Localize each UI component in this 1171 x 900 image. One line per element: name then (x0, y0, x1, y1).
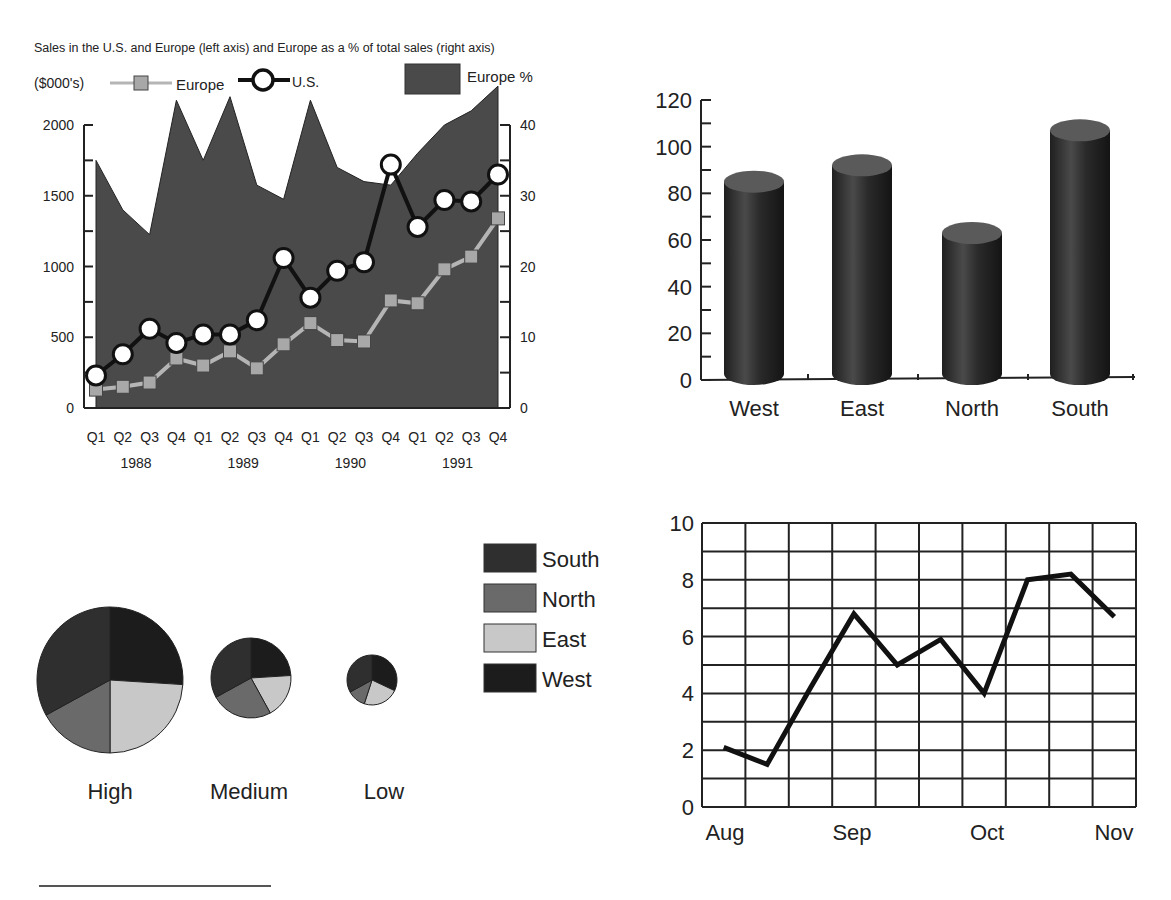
svg-text:East: East (542, 627, 586, 652)
svg-text:1989: 1989 (228, 455, 259, 471)
us-marker (140, 319, 159, 338)
svg-text:Q3: Q3 (247, 429, 266, 445)
europe-marker (331, 334, 344, 347)
svg-text:Q4: Q4 (381, 429, 400, 445)
region-bar-chart: 020406080100120WestEastNorthSouth (640, 80, 1160, 440)
bar-label: West (729, 396, 779, 421)
right-axis: 010203040 (500, 117, 536, 416)
europe-marker (465, 250, 478, 263)
europe-marker (492, 212, 505, 225)
europe-marker (143, 376, 156, 389)
svg-text:Q1: Q1 (301, 429, 320, 445)
svg-text:Q2: Q2 (435, 429, 454, 445)
svg-text:Q2: Q2 (221, 429, 240, 445)
us-marker (328, 261, 347, 280)
x-tick-label: Oct (970, 820, 1004, 845)
x-tick-label: Sep (832, 820, 871, 845)
europe-marker (170, 352, 183, 365)
svg-text:2000: 2000 (43, 117, 74, 133)
europe-marker (438, 263, 451, 276)
x-axis-labels: Q1Q2Q3Q4Q1Q2Q3Q4Q1Q2Q3Q4Q1Q2Q3Q419881989… (87, 429, 508, 471)
svg-text:0: 0 (680, 368, 692, 393)
europe-pct-area (96, 86, 498, 408)
us-marker (435, 190, 454, 209)
us-marker (408, 217, 427, 236)
svg-text:U.S.: U.S. (292, 74, 319, 90)
svg-text:Europe %: Europe % (467, 68, 533, 85)
pie-label: Medium (210, 779, 288, 804)
y-tick-label: 8 (682, 568, 694, 593)
pie-slice-west (110, 607, 183, 685)
svg-text:1990: 1990 (335, 455, 366, 471)
svg-text:Q4: Q4 (167, 429, 186, 445)
region-bar-svg: 020406080100120WestEastNorthSouth (640, 80, 1160, 440)
svg-text:0: 0 (520, 400, 528, 416)
svg-text:Q1: Q1 (87, 429, 106, 445)
us-marker (247, 311, 266, 330)
monthly-line-svg: 0246810AugSepOctNov (640, 500, 1160, 860)
sales-combo-svg: Sales in the U.S. and Europe (left axis)… (0, 30, 560, 480)
pie-legend: SouthNorthEastWest (484, 544, 600, 692)
svg-text:Q3: Q3 (355, 429, 374, 445)
europe-marker (197, 359, 210, 372)
bar-label: South (1051, 396, 1109, 421)
svg-text:Q3: Q3 (140, 429, 159, 445)
region-pie-charts: HighMediumLowSouthNorthEastWest (0, 520, 640, 820)
legend-swatch-south (484, 544, 536, 572)
chart-title: Sales in the U.S. and Europe (left axis)… (34, 41, 495, 55)
us-marker (274, 249, 293, 268)
svg-text:1000: 1000 (43, 259, 74, 275)
pie-medium: Medium (210, 638, 291, 804)
bar-label: East (840, 396, 884, 421)
europe-marker (277, 338, 290, 351)
europe-marker (304, 317, 317, 330)
cylinder-bar-east: East (832, 154, 892, 421)
pie-label: High (87, 779, 132, 804)
europe-marker (224, 345, 237, 358)
y-tick-label: 6 (682, 625, 694, 650)
pie-slice-east (110, 680, 183, 753)
svg-text:20: 20 (668, 321, 692, 346)
svg-text:Q1: Q1 (194, 429, 213, 445)
europe-marker (411, 297, 424, 310)
us-marker (355, 253, 374, 272)
legend-swatch-north (484, 584, 536, 612)
europe-marker (116, 380, 129, 393)
cylinder-bar-west: West (724, 171, 784, 421)
us-marker (194, 325, 213, 344)
svg-text:80: 80 (668, 181, 692, 206)
us-marker (489, 165, 508, 184)
europe-marker (250, 362, 263, 375)
region-pie-svg: HighMediumLowSouthNorthEastWest (0, 520, 640, 820)
svg-text:Q4: Q4 (274, 429, 293, 445)
us-marker (301, 288, 320, 307)
y-tick-label: 2 (682, 738, 694, 763)
us-marker (87, 366, 106, 385)
pie-slice-west (251, 638, 291, 678)
footer-divider (39, 885, 271, 887)
us-marker (221, 325, 240, 344)
x-tick-label: Nov (1094, 820, 1133, 845)
y-tick-label: 0 (682, 795, 694, 820)
us-marker (462, 192, 481, 211)
bar-label: North (945, 396, 999, 421)
svg-text:West: West (542, 667, 592, 692)
pie-label: Low (364, 779, 404, 804)
svg-text:20: 20 (520, 259, 536, 275)
svg-text:Q1: Q1 (408, 429, 427, 445)
unit-label: ($000's) (34, 75, 84, 91)
svg-text:500: 500 (51, 329, 75, 345)
svg-text:Europe: Europe (176, 76, 224, 93)
svg-text:120: 120 (655, 88, 692, 113)
svg-text:Q2: Q2 (113, 429, 132, 445)
y-tick-label: 4 (682, 681, 694, 706)
svg-text:Q2: Q2 (328, 429, 347, 445)
us-legend-marker (253, 70, 273, 90)
legend-swatch-west (484, 664, 536, 692)
pie-low: Low (347, 655, 404, 804)
us-marker (167, 333, 186, 352)
svg-text:1500: 1500 (43, 188, 74, 204)
svg-text:1988: 1988 (120, 455, 151, 471)
cylinder-bar-north: North (942, 222, 1002, 421)
legend: EuropeU.S.Europe % (110, 64, 533, 94)
